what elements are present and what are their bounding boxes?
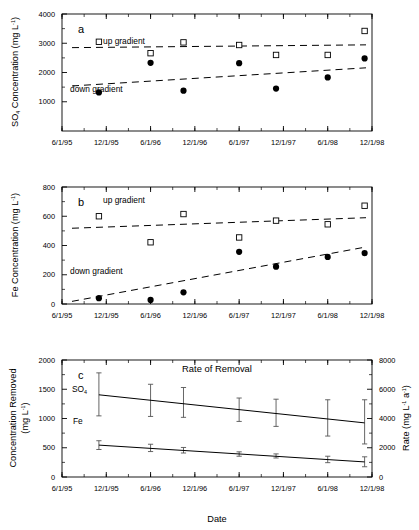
- panel-c-so4-sub: 4: [84, 389, 87, 395]
- data-point-down-gradient: [273, 85, 279, 91]
- x-tick-label: 12/1/95: [94, 311, 119, 320]
- panel-c-y-axis-title-left: Concentration Removed: [8, 368, 18, 467]
- x-tick-label: 6/1/96: [140, 311, 161, 320]
- x-tick-label: 12/1/96: [183, 138, 208, 147]
- panel-a-down-gradient-label: down gradient: [70, 84, 123, 94]
- panel-b-y-ticks: 0200400600800: [43, 183, 67, 309]
- panel-b-ylabel-end: ): [10, 193, 20, 196]
- svg-text:SO4 Concentration (mg L-1): SO4 Concentration (mg L-1): [10, 17, 21, 127]
- panel-c-y-axis-title-left-line2: (mg L-1): [20, 402, 30, 433]
- panel-c-ylabel-left-line1: Concentration Removed: [8, 368, 18, 467]
- y-tick-label: 8000: [379, 356, 395, 365]
- x-tick-label: 12/1/97: [271, 484, 296, 493]
- data-point-down-gradient: [362, 55, 368, 61]
- data-point-down-gradient: [236, 60, 242, 66]
- panel-a-x-ticks: [62, 14, 372, 131]
- x-tick-label: 12/1/95: [94, 484, 119, 493]
- svg-text:Fe Concentration (mg L-1): Fe Concentration (mg L-1): [10, 193, 20, 297]
- data-point-down-gradient: [362, 250, 368, 256]
- panel-a-x-tick-labels: 6/1/9512/1/956/1/9612/1/966/1/9712/1/976…: [52, 138, 385, 147]
- data-point-up-gradient: [148, 240, 153, 245]
- data-point-up-gradient: [236, 42, 241, 47]
- y-tick-label: 500: [43, 443, 55, 452]
- panel-c: 0500100015002000 02000400060008000 6/1/9…: [8, 356, 411, 524]
- svg-text:(mg L-1): (mg L-1): [20, 402, 30, 433]
- y-tick-label: 2000: [379, 443, 395, 452]
- y-tick-label: 6000: [379, 385, 395, 394]
- data-point-up-gradient: [362, 203, 367, 208]
- panel-c-title: Rate of Removal: [182, 363, 252, 374]
- panel-b-down-gradient-label: down gradient: [70, 266, 123, 276]
- panel-c-error-bars: [96, 373, 367, 467]
- x-tick-label: 12/1/98: [360, 138, 385, 147]
- x-tick-label: 6/1/95: [52, 484, 73, 493]
- y-tick-label: 2000: [39, 356, 55, 365]
- trend-line-up-gradient: [72, 218, 366, 229]
- y-tick-label: 0: [51, 473, 55, 482]
- y-tick-label: 1000: [39, 97, 55, 106]
- x-tick-label: 12/1/98: [360, 311, 385, 320]
- panel-a-y-axis-title: SO4 Concentration (mg L-1): [10, 17, 21, 127]
- data-point-down-gradient: [325, 74, 331, 80]
- data-point-up-gradient: [96, 39, 101, 44]
- panel-a-up-gradient-label: up gradient: [103, 36, 146, 46]
- y-tick-label: 1500: [39, 385, 55, 394]
- panel-c-ylabel-right-end: ): [401, 385, 411, 388]
- panel-c-trend-lines: [99, 395, 365, 462]
- data-point-down-gradient: [147, 60, 153, 66]
- panel-b-letter: b: [78, 196, 84, 208]
- svg-text:Rate (mg L-1 a-1): Rate (mg L-1 a-1): [401, 385, 411, 451]
- figure-container: 1000200030004000 6/1/9512/1/956/1/9612/1…: [0, 0, 419, 530]
- x-tick-label: 6/1/96: [140, 138, 161, 147]
- panel-a-y-ticks: 1000200030004000: [39, 10, 67, 107]
- data-point-down-gradient: [96, 295, 102, 301]
- panel-a-ylabel-end: ): [10, 17, 20, 20]
- y-tick-label: 600: [43, 212, 55, 221]
- data-point-up-gradient: [362, 28, 367, 33]
- data-point-down-gradient: [180, 289, 186, 295]
- y-tick-label: 1000: [39, 414, 55, 423]
- x-tick-label: 6/1/98: [317, 311, 338, 320]
- panel-c-letter: c: [78, 369, 84, 381]
- data-point-up-gradient: [148, 50, 153, 55]
- x-tick-label: 12/1/96: [183, 484, 208, 493]
- data-point-up-gradient: [273, 52, 278, 57]
- panel-c-y-ticks-left: 0500100015002000: [39, 356, 67, 482]
- x-tick-label: 12/1/97: [271, 138, 296, 147]
- data-point-up-gradient: [273, 218, 278, 223]
- data-point-up-gradient: [236, 235, 241, 240]
- x-tick-label: 6/1/98: [317, 138, 338, 147]
- data-point-up-gradient: [181, 40, 186, 45]
- x-tick-label: 6/1/95: [52, 311, 73, 320]
- data-point-up-gradient: [181, 211, 186, 216]
- y-tick-label: 2000: [39, 68, 55, 77]
- y-tick-label: 4000: [379, 414, 395, 423]
- y-tick-label: 0: [51, 300, 55, 309]
- panel-c-x-tick-labels: 6/1/9512/1/956/1/9612/1/966/1/9712/1/976…: [52, 484, 385, 493]
- panel-c-so4-text: SO: [72, 384, 85, 394]
- data-point-up-gradient: [325, 222, 330, 227]
- y-tick-label: 0: [379, 473, 383, 482]
- x-tick-label: 6/1/96: [140, 484, 161, 493]
- figure-svg: 1000200030004000 6/1/9512/1/956/1/9612/1…: [0, 0, 419, 530]
- x-tick-label: 6/1/98: [317, 484, 338, 493]
- panel-c-fe-label: Fe: [73, 416, 83, 426]
- panel-a-trend-lines: [72, 45, 366, 86]
- data-point-down-gradient: [147, 297, 153, 303]
- panel-c-so4-label: SO4: [72, 384, 87, 395]
- panel-b-trend-lines: [72, 218, 366, 302]
- panel-b-ylabel-rest: Fe Concentration (mg L: [10, 201, 20, 298]
- panel-c-ylabel-left-pre: (mg L: [20, 410, 30, 434]
- y-tick-label: 400: [43, 241, 55, 250]
- trend-line-Fe: [99, 445, 365, 462]
- x-tick-label: 6/1/95: [52, 138, 73, 147]
- y-tick-label: 4000: [39, 10, 55, 19]
- panel-a-letter: a: [78, 23, 85, 35]
- panel-c-y-axis-title-right: Rate (mg L-1 a-1): [401, 385, 411, 451]
- x-tick-label: 12/1/96: [183, 311, 208, 320]
- panel-a-ylabel-rest: Concentration (mg L: [10, 25, 20, 111]
- panel-b-data-points: [96, 203, 368, 303]
- panel-a-plot-frame: [62, 14, 372, 131]
- x-tick-label: 12/1/95: [94, 138, 119, 147]
- panel-a-ylabel-main: SO: [10, 114, 20, 127]
